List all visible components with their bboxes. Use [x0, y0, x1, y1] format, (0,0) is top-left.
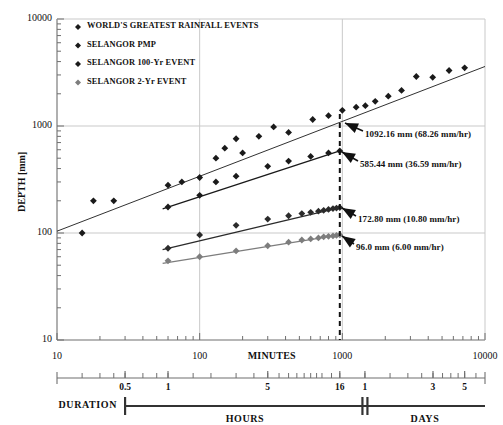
legend-marker — [75, 61, 81, 67]
data-point-marker — [285, 239, 292, 246]
data-point-marker — [398, 87, 405, 94]
data-point-marker — [79, 230, 86, 237]
legend-item-1: SELANGOR PMP — [87, 40, 156, 49]
data-point-marker — [285, 129, 292, 136]
data-point-marker — [255, 133, 262, 140]
duration-tick-label-1: 1 — [148, 382, 188, 392]
x-axis-title: MINUTES — [232, 350, 312, 361]
data-point-marker — [264, 242, 271, 249]
legend-item-2: SELANGOR 100-Yr EVENT — [87, 58, 195, 67]
data-point-marker — [353, 104, 360, 111]
data-point-marker — [264, 216, 271, 223]
data-point-marker — [285, 212, 292, 219]
annotation-arrowhead — [342, 236, 356, 248]
duration-tick-label-2: 5 — [248, 382, 288, 392]
legend-marker — [75, 80, 81, 86]
data-point-marker — [213, 179, 220, 186]
y-axis-title: DEPTH [mm] — [16, 151, 27, 211]
data-point-marker — [307, 236, 314, 243]
duration-tick-label-6: 5 — [445, 382, 485, 392]
data-point-marker — [165, 204, 172, 211]
data-point-marker — [309, 116, 316, 123]
rainfall-depth-duration-chart: 1010010001000010100100010000MINUTESDEPTH… — [0, 0, 503, 425]
duration-days-label: DAYS — [385, 413, 465, 424]
x-tick-label: 10000 — [455, 350, 503, 361]
data-point-marker — [307, 153, 314, 160]
duration-tick-label-0: 0.5 — [105, 382, 145, 392]
legend-item-3: SELANGOR 2-Yr EVENT — [87, 77, 187, 86]
data-point-marker — [446, 67, 453, 74]
y-tick-label: 10 — [8, 333, 52, 344]
data-point-marker — [221, 145, 228, 152]
x-tick-label: 1000 — [312, 350, 372, 361]
legend-marker — [75, 24, 81, 30]
data-point-marker — [372, 98, 379, 105]
data-point-marker — [233, 135, 240, 142]
data-point-marker — [213, 155, 220, 162]
data-point-marker — [196, 253, 203, 260]
data-point-marker — [385, 93, 392, 100]
annotation-label: 1092.16 mm (68.26 mm/hr) — [365, 129, 471, 139]
duration-axis-label: DURATION — [29, 399, 117, 410]
x-tick-label: 10 — [27, 350, 87, 361]
legend-item-0: WORLD'S GREATEST RAINFALL EVENTS — [87, 21, 259, 30]
data-point-marker — [315, 234, 322, 241]
annotation-arrowhead — [345, 123, 359, 133]
annotation-label: 585.44 mm (36.59 mm/hr) — [360, 159, 462, 169]
y-tick-label: 100 — [8, 226, 52, 237]
data-point-marker — [325, 112, 332, 119]
data-point-marker — [362, 102, 369, 109]
data-point-marker — [264, 163, 271, 170]
data-point-marker — [110, 197, 117, 204]
annotation-arrowhead — [342, 208, 356, 219]
data-point-marker — [233, 222, 240, 229]
y-tick-label: 10000 — [8, 12, 52, 23]
data-point-marker — [413, 73, 420, 80]
data-point-marker — [298, 237, 305, 244]
data-point-marker — [429, 74, 436, 81]
trendline — [163, 208, 340, 250]
duration-tick-label-4: 1 — [345, 382, 385, 392]
data-point-marker — [90, 197, 97, 204]
trendline — [57, 66, 485, 231]
annotation-label: 96.0 mm (6.00 mm/hr) — [356, 242, 444, 252]
y-tick-label: 1000 — [8, 119, 52, 130]
legend-marker — [75, 43, 81, 49]
annotation-label: 172.80 mm (10.80 mm/hr) — [358, 214, 460, 224]
data-point-marker — [461, 64, 468, 71]
data-point-marker — [165, 245, 172, 252]
data-point-marker — [285, 158, 292, 165]
data-point-marker — [233, 173, 240, 180]
chart-canvas — [0, 0, 503, 425]
data-point-marker — [233, 248, 240, 255]
data-point-marker — [270, 124, 277, 131]
duration-hours-label: HOURS — [205, 413, 285, 424]
x-tick-label: 100 — [170, 350, 230, 361]
data-point-marker — [239, 150, 246, 157]
annotation-arrowhead — [342, 152, 356, 163]
data-point-marker — [339, 107, 346, 114]
